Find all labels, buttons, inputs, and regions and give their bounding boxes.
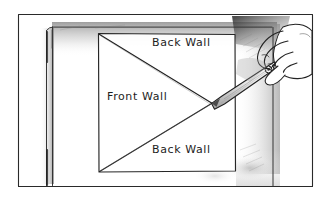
label-front-wall: Front Wall (107, 90, 167, 103)
label-back-wall-top: Back Wall (152, 36, 211, 49)
label-back-wall-bottom: Back Wall (152, 143, 211, 156)
illustration-canvas: Back Wall Front Wall Back Wall (0, 0, 331, 200)
